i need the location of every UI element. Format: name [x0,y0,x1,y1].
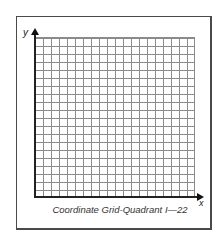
coordinate-grid [35,37,195,197]
x-axis-line [34,196,199,198]
figure-caption: Coordinate Grid-Quadrant I—22 [0,204,224,215]
y-axis-label: y [23,27,28,38]
y-axis-line [34,33,36,198]
y-axis-arrow-icon [31,28,39,35]
